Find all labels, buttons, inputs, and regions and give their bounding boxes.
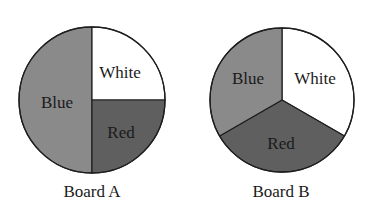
spinner-boards-diagram: Blue White Red Board A Blue White Red Bo… [0, 0, 368, 217]
board-b: Blue White Red Board B [210, 28, 354, 201]
board-a-caption: Board A [63, 182, 121, 201]
board-b-white-label: White [294, 69, 336, 88]
board-a-red-label: Red [107, 123, 135, 142]
board-a: Blue White Red Board A [19, 27, 165, 201]
board-b-caption: Board B [252, 182, 309, 201]
board-a-white-label: White [99, 63, 141, 82]
board-b-red-label: Red [267, 134, 295, 153]
board-a-blue-label: Blue [41, 93, 73, 112]
board-b-blue-label: Blue [232, 69, 264, 88]
